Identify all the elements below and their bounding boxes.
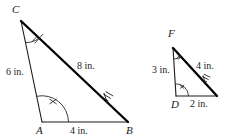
vertex-label-d: D xyxy=(171,99,179,110)
side-label-fd: 3 in. xyxy=(152,65,170,75)
side-label-cb: 8 in. xyxy=(77,61,95,71)
side-label-ab: 4 in. xyxy=(70,126,88,136)
side-label-fe: 4 in. xyxy=(196,61,214,71)
vertex-label-f: F xyxy=(168,28,175,39)
vertex-label-b: B xyxy=(126,125,133,136)
vertex-label-c: C xyxy=(12,4,19,15)
vertex-label-a: A xyxy=(36,125,43,136)
side-label-ca: 6 in. xyxy=(6,67,24,77)
side-label-de: 2 in. xyxy=(190,99,208,109)
